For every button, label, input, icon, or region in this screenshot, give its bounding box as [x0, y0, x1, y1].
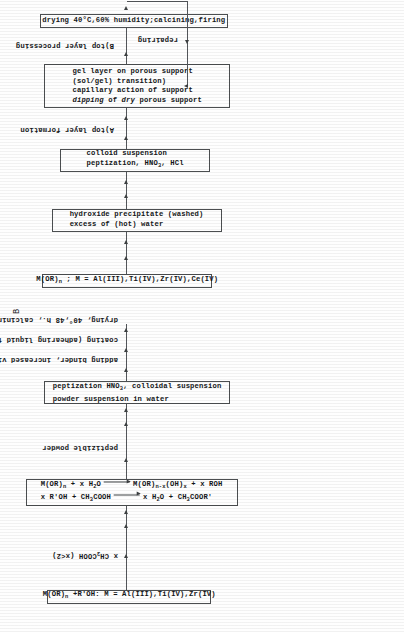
- firing-label: drying, 40°,48 h., calcining, firing: [0, 315, 118, 324]
- arrow-b-7: [124, 52, 128, 56]
- coating-label: coating (adhearing liquid film): [0, 335, 118, 344]
- precursor-text-b: M(OR)n ; M = Al(III),Ti(IV),Zr(IV),Ce(IV…: [36, 275, 218, 288]
- peptization-box-b: peptization, HNO3, HCl colloid suspensio…: [60, 149, 210, 172]
- acid-label: x CH3COOH (x<2): [52, 548, 118, 560]
- arrow-a-9: [124, 328, 128, 332]
- powder-label: peptizible powder: [42, 443, 118, 452]
- dipping-line-1: dipping of dry porous support: [72, 96, 201, 106]
- arrow-a-7: [124, 368, 128, 372]
- suspension-box-a: powder suspension in water peptization H…: [44, 381, 230, 404]
- arrow-a-6: [124, 408, 128, 412]
- suspension-line-1: powder suspension in water: [53, 394, 222, 404]
- figure-canvas: B M(OR)n ; M = Al(III),Ti(IV),Zr(IV),Ce(…: [0, 0, 404, 632]
- hydrolysis-line-2: hydroxide precipitate (washed): [70, 211, 204, 221]
- dipping-line-3: (sol/gel) transition): [72, 76, 201, 86]
- section-b-tag: B: [12, 309, 22, 314]
- precursor-box-b: M(OR)n ; M = Al(III),Ti(IV),Zr(IV),Ce(IV…: [42, 274, 212, 288]
- reaction-line-2: M(OR)n + x H2OM(OR)n-x(OH)x + x ROH: [41, 480, 223, 493]
- flowchart-a: M(OR)n +R'OH: M = Al(III),Ti(IV),Zr(IV) …: [0, 316, 202, 632]
- arrow-b-1: [124, 256, 128, 260]
- stage-a-label: A)top layer formation: [20, 125, 114, 134]
- arrow-a-2: [124, 524, 128, 528]
- suspension-line-2: peptization HNO3, colloidal suspension: [53, 381, 222, 394]
- arrow-a-1: [124, 554, 128, 558]
- arrow-a-4: [124, 458, 128, 462]
- feedback-vline-right: [127, 1, 187, 2]
- feedback-arrow: [184, 84, 188, 88]
- drying-box-b: drying 40°C,60% humidity;calcining,firin…: [40, 14, 228, 28]
- arrow-b-8: [124, 6, 128, 10]
- precursor-box-a: M(OR)n +R'OH: M = Al(III),Ti(IV),Zr(IV): [47, 590, 211, 604]
- arrow-a-5: [124, 422, 128, 426]
- arrow-b-2: [124, 240, 128, 244]
- arrow-b-6: [124, 116, 128, 120]
- flowchart-b: B M(OR)n ; M = Al(III),Ti(IV),Zr(IV),Ce(…: [0, 0, 202, 316]
- dipping-box-b: dipping of dry porous support capillary …: [44, 64, 230, 108]
- drying-text-b: drying 40°C,60% humidity;calcining,firin…: [43, 16, 226, 26]
- peptization-line-2: colloid suspension: [86, 149, 183, 159]
- repairing-label: repairing: [138, 35, 178, 44]
- peptization-line-1: peptization, HNO3, HCl: [86, 159, 183, 172]
- feedback-arrow-mid: [185, 40, 189, 44]
- binder-label: adding binder, increased viscosity: [0, 355, 118, 364]
- hydrolysis-box-b: excess of (hot) water hydroxide precipit…: [52, 209, 222, 232]
- precursor-text-a: M(OR)n +R'OH: M = Al(III),Ti(IV),Zr(IV): [42, 591, 215, 604]
- stage-b-label: B)top layer processing: [16, 41, 114, 50]
- arrow-b-3: [124, 194, 128, 198]
- hydrolysis-line-1: excess of (hot) water: [70, 221, 204, 231]
- arrow-b-5: [124, 136, 128, 140]
- reaction-box-a: x R'OH + CH3COOHx H2O + CH3COOR' M(OR)n …: [26, 479, 238, 506]
- reaction-line-1: x R'OH + CH3COOHx H2O + CH3COOR': [41, 493, 223, 506]
- arrow-a-8: [124, 348, 128, 352]
- arrow-b-4: [124, 180, 128, 184]
- arrow-a-3: [124, 510, 128, 514]
- dipping-line-4: gel layer on porous support: [72, 67, 201, 77]
- dipping-line-2: capillary action of support: [72, 86, 201, 96]
